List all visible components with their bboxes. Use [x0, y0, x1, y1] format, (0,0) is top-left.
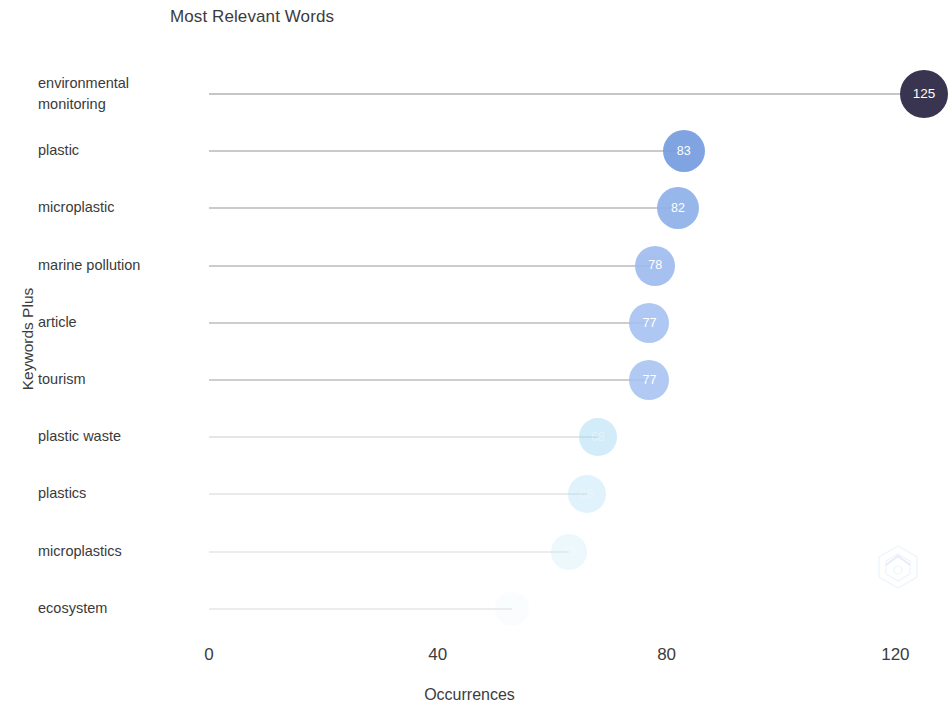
- data-point-value-label: 68: [591, 431, 605, 444]
- y-axis-category-label: marine pollution: [38, 255, 203, 276]
- data-point-value-label: 53: [505, 603, 519, 616]
- data-point-marker[interactable]: 66: [568, 475, 606, 513]
- y-axis-category-label: plastics: [38, 484, 203, 505]
- data-point-value-label: 77: [642, 317, 656, 330]
- lollipop-stem: [209, 322, 649, 323]
- data-point-marker[interactable]: 53: [495, 592, 529, 626]
- y-axis-category-label: tourism: [38, 369, 203, 390]
- data-point-marker[interactable]: 78: [635, 246, 675, 286]
- y-axis-category-label: microplastic: [38, 198, 203, 219]
- lollipop-stem: [209, 380, 649, 381]
- data-point-marker[interactable]: 77: [629, 360, 669, 400]
- data-point-value-label: 77: [642, 374, 656, 387]
- data-point-marker[interactable]: 63: [551, 534, 587, 570]
- x-axis-tick-label: 80: [657, 645, 676, 665]
- data-point-marker[interactable]: 68: [579, 418, 617, 456]
- data-point-value-label: 83: [677, 145, 691, 158]
- data-point-marker[interactable]: 77: [629, 303, 669, 343]
- data-point-value-label: 66: [580, 488, 594, 501]
- y-axis-category-label: ecosystem: [38, 598, 203, 619]
- data-point-marker[interactable]: 82: [657, 187, 699, 229]
- data-point-value-label: 78: [648, 259, 662, 272]
- data-point-marker[interactable]: 83: [663, 130, 705, 172]
- data-point-value-label: 82: [671, 202, 685, 215]
- y-axis-category-label: microplastics: [38, 541, 203, 562]
- x-axis-title: Occurrences: [0, 686, 939, 704]
- lollipop-stem: [209, 608, 512, 609]
- lollipop-stem: [209, 151, 684, 152]
- data-point-value-label: 125: [913, 87, 936, 101]
- lollipop-stem: [209, 494, 587, 495]
- data-point-marker[interactable]: 125: [900, 70, 948, 118]
- lollipop-stem: [209, 551, 569, 552]
- lollipop-stem: [209, 208, 678, 209]
- x-axis-tick-label: 0: [204, 645, 213, 665]
- x-axis-tick-label: 120: [881, 645, 909, 665]
- y-axis-category-label: plastic waste: [38, 426, 203, 447]
- y-axis-category-label: article: [38, 312, 203, 333]
- lollipop-stem: [209, 265, 655, 266]
- y-axis-category-label: plastic: [38, 140, 203, 161]
- data-point-value-label: 63: [562, 545, 576, 558]
- lollipop-stem: [209, 94, 924, 95]
- y-axis-category-label: environmental monitoring: [38, 73, 203, 116]
- lollipop-stem: [209, 437, 598, 438]
- x-axis-tick-label: 40: [428, 645, 447, 665]
